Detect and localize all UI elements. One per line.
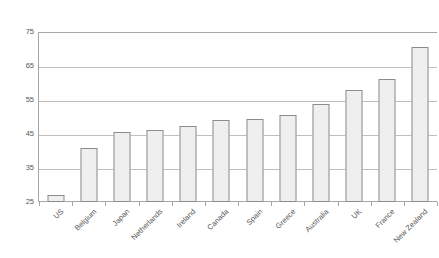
bar-slot — [338, 32, 371, 202]
y-axis-tick-label: 35 — [8, 164, 34, 172]
y-axis-tick-label: 55 — [8, 96, 34, 104]
bar[interactable] — [113, 132, 130, 202]
bar-slot — [304, 32, 337, 202]
bar[interactable] — [213, 120, 230, 202]
bar[interactable] — [379, 79, 396, 202]
bar[interactable] — [312, 104, 329, 202]
bar-slot — [371, 32, 404, 202]
bar-slot — [404, 32, 437, 202]
bar-slot — [271, 32, 304, 202]
y-axis-tick-label: 45 — [8, 130, 34, 138]
x-axis-tick — [39, 202, 40, 206]
bar[interactable] — [147, 130, 164, 202]
bar-chart: 253545556575 USBelgiumJapanNetherlandsIr… — [0, 0, 439, 258]
bar[interactable] — [412, 47, 429, 202]
bars-layer — [39, 32, 437, 202]
y-axis-tick-label: 65 — [8, 62, 34, 70]
bar-slot — [238, 32, 271, 202]
bar[interactable] — [47, 195, 64, 202]
y-axis-tick-label: 75 — [8, 28, 34, 36]
bar-slot — [205, 32, 238, 202]
bar[interactable] — [346, 90, 363, 202]
bar-slot — [172, 32, 205, 202]
y-axis-tick-label: 25 — [8, 198, 34, 206]
bar-slot — [139, 32, 172, 202]
bar[interactable] — [279, 115, 296, 202]
bar[interactable] — [246, 119, 263, 202]
x-axis-tick-labels: USBelgiumJapanNetherlandsIrelandCanadaSp… — [39, 207, 437, 258]
bar[interactable] — [80, 148, 97, 202]
y-axis-tick-labels: 253545556575 — [0, 0, 34, 258]
bar-slot — [105, 32, 138, 202]
bar-slot — [72, 32, 105, 202]
bar-slot — [39, 32, 72, 202]
